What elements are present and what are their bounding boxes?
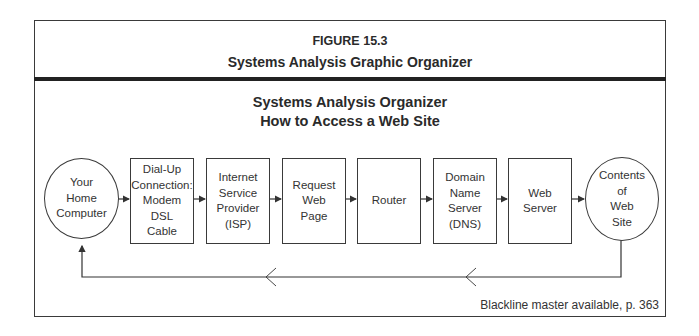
step-dial-up-connection: Dial-Up Connection: Modem DSL Cable — [130, 158, 194, 244]
return-path — [82, 240, 621, 277]
step-router: Router — [357, 158, 421, 244]
blackline-note: Blackline master available, p. 363 — [480, 298, 659, 312]
step-dns: Domain Name Server (DNS) — [433, 158, 497, 244]
step-request-web-page: Request Web Page — [282, 158, 346, 244]
step-web-server: Web Server — [508, 158, 572, 244]
start-node-home-computer: Your Home Computer — [44, 158, 119, 239]
step-isp: Internet Service Provider (ISP) — [206, 158, 270, 244]
end-node-web-site-contents: Contents of Web Site — [585, 157, 659, 241]
